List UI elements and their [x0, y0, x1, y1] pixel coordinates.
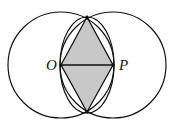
- point-bottom: [86, 111, 89, 114]
- point-P: [111, 63, 114, 66]
- point-O: [59, 63, 62, 66]
- label-P: P: [119, 58, 128, 73]
- diagram: O P: [0, 0, 175, 124]
- label-O: O: [46, 58, 57, 73]
- point-top: [86, 16, 89, 19]
- diagram-svg: [0, 0, 175, 124]
